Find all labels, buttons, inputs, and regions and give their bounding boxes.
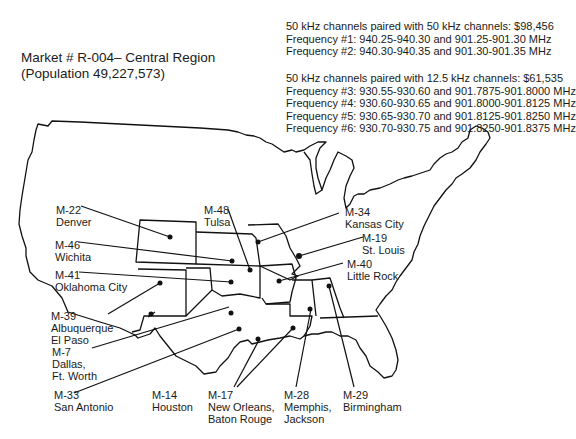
market-label-houston: M-14 Houston bbox=[152, 389, 193, 413]
market-dot-san-antonio bbox=[237, 327, 242, 332]
arkansas-border bbox=[260, 264, 296, 304]
market-dot-kansas-city bbox=[256, 240, 261, 245]
market-dot-new-orleans bbox=[291, 326, 296, 331]
market-label-wichita: M-46 Wichita bbox=[55, 239, 91, 263]
market-label-kansas-city: M-34 Kansas City bbox=[345, 206, 404, 230]
market-label-birmingham: M-29 Birmingham bbox=[343, 389, 402, 413]
market-label-little-rock: M-40 Little Rock bbox=[347, 258, 398, 282]
missouri-border bbox=[248, 224, 300, 280]
market-label-dallas: M-7 Dallas, Ft. Worth bbox=[52, 346, 97, 382]
market-label-albuquerque-el-paso: M-39 Albuquerque El Paso bbox=[51, 310, 113, 346]
market-label-oklahoma-city: M-41 Oklahoma City bbox=[55, 269, 127, 293]
market-dot-houston bbox=[256, 337, 261, 342]
louisiana-border bbox=[266, 304, 312, 336]
market-label-st-louis: M-19 St. Louis bbox=[362, 232, 405, 256]
market-dot-denver bbox=[168, 235, 173, 240]
market-label-denver: M-22 Denver bbox=[56, 204, 91, 228]
market-dot-dallas bbox=[229, 311, 234, 316]
market-dot-little-rock bbox=[277, 279, 282, 284]
market-dot-st-louis bbox=[296, 253, 302, 259]
market-label-san-antonio: M-33 San Antonio bbox=[54, 389, 113, 413]
gulf-line bbox=[320, 316, 378, 318]
market-label-tulsa: M-48 Tulsa bbox=[204, 204, 231, 228]
market-label-new-orleans: M-17 New Orleans, Baton Rouge bbox=[208, 389, 275, 425]
market-label-memphis: M-28 Memphis, Jackson bbox=[284, 389, 332, 425]
market-dot-birmingham bbox=[327, 284, 332, 289]
market-dot-tulsa bbox=[248, 268, 253, 273]
market-dot-memphis bbox=[308, 307, 313, 312]
leader-lines bbox=[74, 206, 363, 393]
mississippi-border bbox=[292, 280, 316, 316]
market-dots bbox=[149, 235, 332, 342]
texas-border bbox=[186, 290, 212, 316]
market-dot-wichita bbox=[230, 259, 235, 264]
colorado-border bbox=[136, 220, 196, 264]
great-lakes bbox=[304, 152, 322, 194]
market-dot-el-paso bbox=[149, 312, 154, 317]
market-dot-albuquerque bbox=[158, 281, 163, 286]
market-dot-oklahoma-city bbox=[229, 280, 234, 285]
